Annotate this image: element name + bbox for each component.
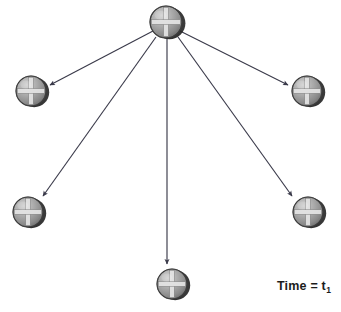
arrow-to-lower-right xyxy=(178,37,292,196)
node-upper-right xyxy=(292,76,325,107)
diagram-canvas: Time = t1 xyxy=(0,0,341,312)
center-node xyxy=(150,6,185,39)
time-label-prefix: Time = t xyxy=(277,279,326,293)
time-label-subscript: 1 xyxy=(326,285,331,295)
node-layer xyxy=(13,6,326,300)
arrow-layer xyxy=(43,31,292,264)
network-diagram xyxy=(0,0,341,312)
time-label: Time = t1 xyxy=(277,280,331,293)
arrow-to-upper-left xyxy=(50,31,153,85)
node-bottom xyxy=(157,269,190,300)
arrow-to-lower-left xyxy=(43,37,156,196)
node-lower-right xyxy=(293,197,326,228)
node-lower-left xyxy=(13,197,46,228)
node-upper-left xyxy=(16,76,49,107)
arrow-to-upper-right xyxy=(180,31,288,85)
